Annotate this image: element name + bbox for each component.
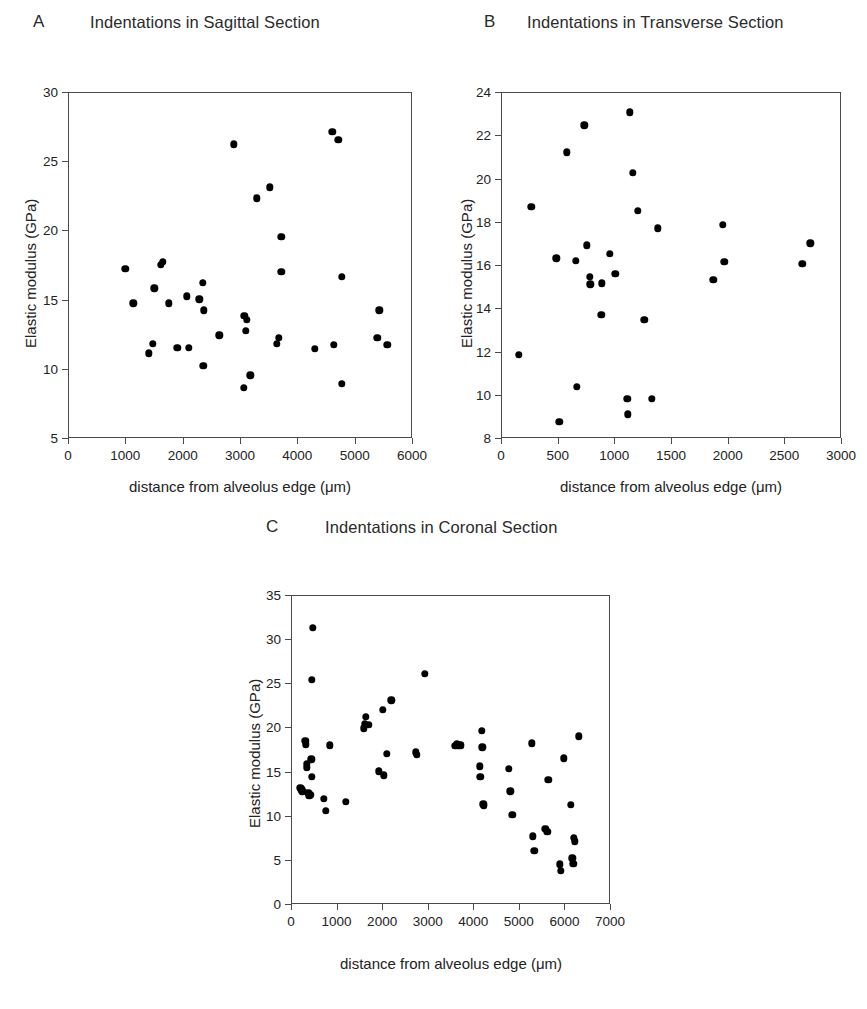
data-point <box>200 307 207 314</box>
y-axis-tick <box>285 639 291 640</box>
data-point <box>308 676 315 683</box>
y-axis-tick-label: 25 <box>24 154 58 169</box>
x-axis-tick <box>355 438 356 444</box>
data-point <box>626 109 633 116</box>
data-point <box>807 240 814 247</box>
data-point <box>528 740 535 747</box>
x-axis-tick <box>841 438 842 444</box>
data-point <box>597 311 604 318</box>
data-point <box>560 755 567 762</box>
data-point <box>571 838 578 845</box>
data-point <box>598 280 605 287</box>
data-point <box>307 791 314 798</box>
data-point <box>719 221 726 228</box>
x-axis-tick <box>183 438 184 444</box>
data-point <box>185 344 192 351</box>
panel-c-datapoints <box>292 596 609 903</box>
x-axis-tick-label: 3000 <box>826 448 856 463</box>
x-axis-tick <box>428 904 429 910</box>
y-axis-tick <box>495 135 501 136</box>
x-axis-tick-label: 1000 <box>110 448 140 463</box>
data-point <box>557 867 564 874</box>
data-point <box>612 270 619 277</box>
panel-b-plot-area <box>501 92 841 438</box>
data-point <box>380 772 387 779</box>
data-point <box>246 372 253 379</box>
data-point <box>253 194 260 201</box>
data-point <box>130 300 137 307</box>
x-axis-tick <box>519 904 520 910</box>
data-point <box>275 334 282 341</box>
x-axis-tick <box>728 438 729 444</box>
x-axis-tick-label: 4000 <box>282 448 312 463</box>
data-point <box>575 733 582 740</box>
y-axis-tick <box>62 230 68 231</box>
x-axis-tick-label: 2000 <box>168 448 198 463</box>
x-axis-tick-label: 5000 <box>504 914 534 929</box>
data-point <box>308 773 315 780</box>
x-axis-tick <box>382 904 383 910</box>
data-point <box>634 207 641 214</box>
data-point <box>309 624 316 631</box>
data-point <box>710 276 717 283</box>
data-point <box>383 341 390 348</box>
panel-b-ylabel: Elastic modulus (GPa) <box>458 199 475 348</box>
panel-c-plot-area <box>291 595 610 904</box>
x-axis-tick <box>558 438 559 444</box>
data-point <box>508 811 515 818</box>
data-point <box>174 344 181 351</box>
y-axis-tick <box>62 161 68 162</box>
data-point <box>624 395 631 402</box>
panel-b-letter: B <box>484 12 496 32</box>
panel-c-title: Indentations in Coronal Section <box>325 518 557 537</box>
data-point <box>199 362 206 369</box>
y-axis-tick <box>62 300 68 301</box>
x-axis-tick <box>125 438 126 444</box>
y-axis-tick-label: 24 <box>457 85 491 100</box>
data-point <box>183 293 190 300</box>
data-point <box>338 273 345 280</box>
x-axis-tick-label: 3000 <box>225 448 255 463</box>
x-axis-tick <box>473 904 474 910</box>
y-axis-tick <box>285 772 291 773</box>
y-axis-tick-label: 8 <box>457 431 491 446</box>
data-point <box>629 169 636 176</box>
data-point <box>322 807 329 814</box>
x-axis-tick-label: 2000 <box>367 914 397 929</box>
x-axis-tick <box>564 904 565 910</box>
y-axis-tick <box>62 92 68 93</box>
data-point <box>121 265 128 272</box>
data-point <box>302 741 309 748</box>
y-axis-tick <box>495 395 501 396</box>
data-point <box>563 149 570 156</box>
x-axis-tick <box>337 904 338 910</box>
x-axis-tick-label: 1000 <box>322 914 352 929</box>
panel-a-title: Indentations in Sagittal Section <box>90 13 320 32</box>
y-axis-tick <box>62 369 68 370</box>
y-axis-tick <box>285 904 291 905</box>
data-point <box>362 713 369 720</box>
data-point <box>375 307 382 314</box>
y-axis-tick <box>495 352 501 353</box>
data-point <box>583 242 590 249</box>
data-point <box>216 331 223 338</box>
data-point <box>165 300 172 307</box>
x-axis-tick <box>291 904 292 910</box>
y-axis-tick <box>495 222 501 223</box>
data-point <box>149 340 156 347</box>
data-point <box>654 224 661 231</box>
data-point <box>477 773 484 780</box>
panel-a-xlabel: distance from alveolus edge (μm) <box>129 478 351 495</box>
data-point <box>145 349 152 356</box>
x-axis-tick-label: 500 <box>546 448 569 463</box>
x-axis-tick-label: 7000 <box>595 914 625 929</box>
data-point <box>553 255 560 262</box>
x-axis-tick <box>68 438 69 444</box>
panel-a-letter: A <box>33 12 45 32</box>
x-axis-tick <box>412 438 413 444</box>
data-point <box>413 751 420 758</box>
data-point <box>478 727 485 734</box>
panel-c-ylabel: Elastic modulus (GPa) <box>246 679 263 828</box>
data-point <box>529 832 536 839</box>
data-point <box>374 334 381 341</box>
